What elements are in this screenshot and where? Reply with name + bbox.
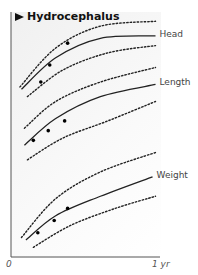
growth-chart	[0, 0, 198, 275]
length-data-point	[32, 139, 36, 143]
x-tick-0: 0	[6, 259, 12, 269]
head-upper-band	[20, 21, 156, 87]
series-label-length: Length	[160, 77, 191, 87]
weight-lower-band	[33, 196, 155, 247]
x-tick-1yr: 1 yr	[152, 259, 170, 269]
series-label-head: Head	[160, 29, 184, 39]
weight-upper-band	[21, 153, 155, 238]
weight-data-point	[52, 219, 56, 223]
series-label-weight: Weight	[157, 170, 188, 180]
length-median-curve	[24, 84, 155, 145]
head-lower-band	[27, 46, 155, 97]
chart-title: Hydrocephalus	[15, 10, 120, 23]
length-data-point	[63, 119, 67, 123]
length-data-point	[46, 129, 50, 133]
head-data-point	[39, 80, 43, 84]
axes	[11, 12, 160, 257]
chart-title-text: Hydrocephalus	[27, 10, 120, 23]
length-upper-band	[24, 67, 155, 128]
head-data-point	[48, 63, 52, 67]
weight-data-point	[66, 207, 70, 211]
pointer-triangle-icon	[15, 13, 24, 21]
head-data-point	[66, 41, 70, 45]
weight-data-point	[36, 231, 40, 235]
curves	[20, 21, 156, 247]
weight-median-curve	[26, 177, 153, 240]
